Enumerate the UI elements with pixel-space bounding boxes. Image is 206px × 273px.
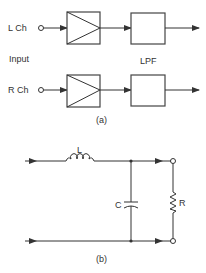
left-amplifier-box [67, 12, 100, 44]
figure-b-caption: (b) [96, 254, 107, 264]
input-label: Input [9, 54, 30, 64]
left-lpf-box [131, 13, 165, 44]
right-lpf-box [131, 75, 165, 106]
left-channel-path: L Ch [8, 12, 199, 44]
right-channel-path: R Ch [8, 75, 199, 107]
bottom-junction-dot [129, 239, 132, 242]
right-channel-label: R Ch [8, 85, 29, 95]
figure-b: L C R (b) [25, 145, 186, 264]
figure-a-caption: (a) [96, 115, 107, 125]
left-channel-label: L Ch [8, 23, 27, 33]
right-amplifier-box [67, 75, 100, 107]
left-input-terminal [39, 26, 44, 31]
inductor-label: L [77, 145, 82, 155]
diagram-canvas: L Ch Input LPF R Ch (a) [0, 0, 206, 273]
resistor-label: R [179, 198, 186, 208]
figure-a: L Ch Input LPF R Ch (a) [8, 12, 199, 125]
top-output-terminal [171, 159, 176, 164]
right-input-terminal [39, 88, 44, 93]
resistor-icon [170, 192, 176, 213]
lpf-label: LPF [140, 56, 157, 66]
bottom-output-terminal [171, 239, 176, 244]
capacitor-label: C [115, 200, 122, 210]
